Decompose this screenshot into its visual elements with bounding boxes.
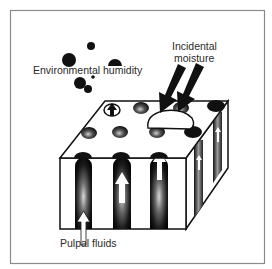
diagram-canvas: Environmental humidity [0,0,272,269]
environmental-humidity-label: Environmental humidity [33,64,143,76]
incidental-moisture-line1: Incidental [172,40,217,52]
incidental-moisture-label: Incidental moisture [172,40,220,64]
incidental-moisture-line2: moisture [174,52,214,64]
tubule-opening [133,102,149,114]
droplet-icon [84,85,92,93]
tubule-opening [81,127,97,139]
tubule-opening [112,126,128,138]
tubule-opening [207,100,225,112]
droplet-icon [87,42,95,50]
droplet-icon [74,77,86,89]
side-tubule [194,140,203,218]
pulpal-fluids-label: Pulpal fluids [60,237,117,249]
